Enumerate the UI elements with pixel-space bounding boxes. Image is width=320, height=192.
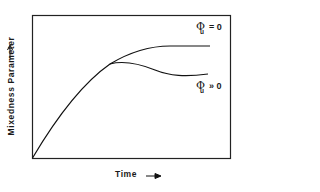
curve-label-phi-large: Φu» 0	[196, 79, 222, 92]
x-axis-label: Time	[115, 169, 137, 179]
curve-label-phi-zero: Φu= 0	[196, 20, 222, 33]
curve-phi-large	[110, 62, 208, 75]
x-arrow-icon	[146, 174, 161, 179]
